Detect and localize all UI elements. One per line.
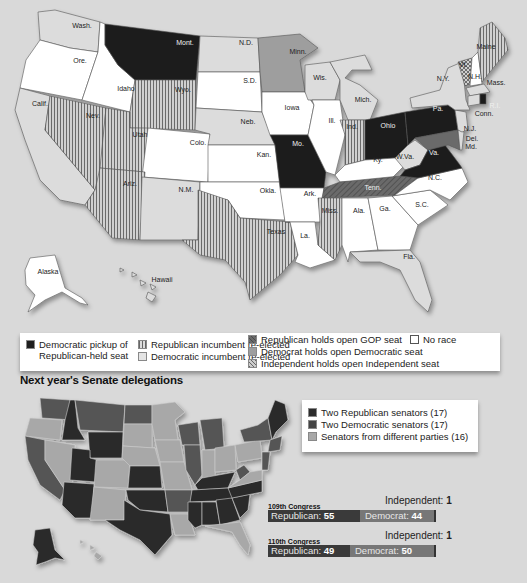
state-label: Tenn.: [364, 184, 381, 191]
congress-109-title: 109th Congress: [268, 503, 436, 510]
legend-no-race-label: No race: [423, 334, 456, 345]
del-nj-md: [262, 452, 270, 470]
delegation-map: [25, 398, 288, 565]
state-label: N.D.: [239, 39, 253, 46]
legend-two-dem: Two Democratic senators (17): [308, 418, 478, 430]
del-neb: [122, 446, 160, 466]
del-sd: [123, 424, 152, 448]
state-maine: [478, 22, 508, 82]
del-colo: [94, 460, 130, 488]
rep-segment-110: Republican: 49: [268, 545, 350, 557]
hatch-swatch: [138, 340, 147, 349]
del-wis: [178, 422, 200, 445]
state-colo: [142, 128, 210, 182]
state-label: Ohio: [381, 122, 396, 129]
state-label: Ala.: [353, 207, 365, 214]
state-label: Okla.: [260, 187, 276, 194]
legend-ind-open: Independent holds open Independent seat: [248, 358, 439, 369]
state-label: Mich.: [355, 96, 372, 103]
legend-mixed-label: Senators from different parties (16): [321, 431, 468, 442]
legend-two-rep: Two Republican senators (17): [308, 406, 478, 418]
state-label: Ind.: [346, 123, 358, 130]
state-label: Ky.: [373, 156, 383, 164]
state-label: Vt.: [459, 61, 468, 68]
state-label: Neb.: [241, 118, 256, 125]
state-label: Colo.: [190, 139, 206, 146]
light-swatch: [138, 352, 147, 361]
two-rep-swatch: [308, 408, 317, 417]
del-ore: [25, 418, 62, 440]
ind-segment-110: [434, 545, 436, 557]
state-label: N.Y.: [437, 75, 450, 82]
state-ark: [280, 188, 324, 222]
election-legend: Democratic pickup ofRepublican-held seat…: [20, 333, 500, 371]
senate-election-graphic: Wash.Ore.Calif.IdahoNev.Mont.Wyo.UtahCol…: [0, 0, 527, 583]
state-label: Calif.: [32, 100, 48, 107]
state-conn: [468, 94, 480, 106]
dem-pickup-swatch: [26, 340, 35, 349]
state-label: Conn.: [475, 110, 494, 117]
white-swatch: [410, 335, 419, 344]
legend-dem-pickup-line1: Democratic pickup of: [39, 339, 128, 350]
del-fla: [205, 522, 250, 555]
del-kan: [128, 466, 162, 488]
state-label: Iowa: [285, 104, 300, 111]
legend-two-dem-label: Two Democratic senators (17): [321, 419, 448, 430]
del-ohio: [215, 445, 236, 472]
state-ri: [480, 94, 486, 104]
state-iowa: [262, 92, 314, 135]
state-label: Mass.: [487, 79, 506, 86]
del-pa: [235, 440, 262, 462]
state-label: Utah: [133, 131, 148, 138]
legend-dem-open-label: Democrat holds open Democratic seat: [261, 346, 423, 357]
state-label: Ga.: [379, 205, 390, 212]
state-label: Fla.: [403, 253, 415, 260]
two-dem-swatch: [308, 420, 317, 429]
congress-110-title: 110th Congress: [268, 538, 436, 545]
congress-110-bar: Republican: 49 Democrat: 50: [268, 545, 436, 557]
state-label: N.J.: [464, 125, 477, 132]
state-label: Kan.: [257, 151, 271, 158]
rep-segment-109: Republican: 55: [268, 510, 360, 522]
dem-segment-109: Democrat: 44: [360, 510, 434, 522]
state-label: Miss.: [322, 207, 338, 214]
state-label: Hawaii: [151, 276, 172, 283]
state-label: R.I.: [490, 102, 501, 109]
legend-dem-pickup: Democratic pickup ofRepublican-held seat: [26, 339, 128, 361]
state-label: Alaska: [37, 268, 58, 275]
state-label: W.Va.: [396, 153, 414, 160]
legend-ind-open-label: Independent holds open Independent seat: [261, 358, 439, 369]
legend-rep-open: Republican holds open GOP seat: [248, 334, 402, 345]
state-label: S.D.: [243, 77, 257, 84]
del-hawaii: [80, 540, 102, 560]
state-label: La.: [300, 232, 310, 239]
legend-rep-open-label: Republican holds open GOP seat: [261, 334, 402, 345]
del-alaska: [33, 528, 65, 565]
del-mont: [75, 400, 125, 432]
state-label: Mo.: [292, 140, 304, 147]
state-label: N.M.: [179, 186, 194, 193]
congress-109: 109th Congress Republican: 55 Democrat: …: [268, 503, 436, 522]
ind-segment-109: [434, 510, 436, 522]
top-map-states: [15, 10, 508, 312]
dem-segment-110: Democrat: 50: [350, 545, 434, 557]
del-nd: [124, 405, 152, 424]
del-wyo: [88, 432, 123, 458]
state-label: Ill.: [329, 117, 336, 124]
legend-two-rep-label: Two Republican senators (17): [321, 407, 447, 418]
state-label: Texas: [267, 228, 286, 235]
state-label: Maine: [476, 43, 495, 50]
state-label: Nev.: [86, 112, 100, 119]
del-ind: [202, 450, 215, 478]
congress-109-bar: Republican: 55 Democrat: 44: [268, 510, 436, 522]
state-label: Wash.: [72, 22, 92, 29]
state-label: N.H.: [468, 73, 482, 80]
legend-no-race: No race: [410, 334, 456, 345]
state-label: Wis.: [313, 74, 327, 81]
state-label: S.C.: [415, 201, 429, 208]
crosshatch-swatch: [248, 359, 257, 368]
del-iowa: [155, 440, 184, 462]
legend-dem-pickup-line2: Republican-held seat: [39, 350, 128, 361]
state-label: Md.: [465, 143, 477, 150]
state-hawaii: [120, 268, 156, 302]
